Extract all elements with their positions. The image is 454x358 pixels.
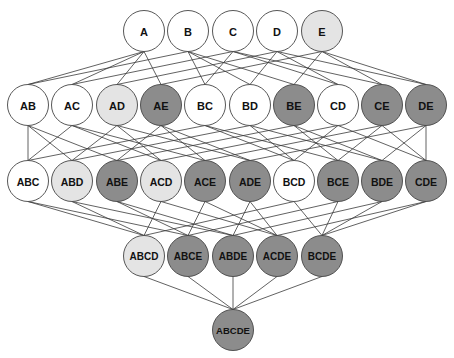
edge-acd-abcd <box>144 202 161 236</box>
edge-bce-bcde <box>322 202 338 236</box>
edge-bcd-abcd <box>144 202 294 236</box>
node-abcde: ABCDE <box>213 310 254 351</box>
edge-bd-abd <box>72 126 250 161</box>
node-label: B <box>184 26 192 38</box>
node-ae: AE <box>141 85 182 126</box>
node-bce: BCE <box>318 161 359 202</box>
node-label: BE <box>286 100 301 112</box>
edge-bcde-abcde <box>233 277 322 310</box>
node-abde: ABDE <box>213 236 254 277</box>
edge-ade-abde <box>233 202 250 236</box>
edge-be-abe <box>117 126 294 161</box>
node-ab: AB <box>8 85 49 126</box>
node-label: ABCDE <box>216 325 250 336</box>
edge-bde-abde <box>233 202 382 236</box>
node-label: BD <box>242 100 258 112</box>
node-ac: AC <box>52 85 93 126</box>
node-label: BCDE <box>308 251 337 262</box>
node-bcd: BCD <box>274 161 315 202</box>
edge-bce-abce <box>188 202 338 236</box>
node-ad: AD <box>97 85 138 126</box>
node-label: ABCE <box>174 251 203 262</box>
edge-acde-abcde <box>233 277 277 310</box>
edge-cde-bcde <box>322 202 426 236</box>
node-label: CD <box>330 100 346 112</box>
node-label: ACE <box>194 176 216 188</box>
node-ce: CE <box>362 85 403 126</box>
node-ace: ACE <box>185 161 226 202</box>
edge-b-ab <box>28 52 188 85</box>
edge-cd-cde <box>338 126 426 161</box>
node-b: B <box>168 11 209 52</box>
node-abcd: ABCD <box>124 236 165 277</box>
node-bc: BC <box>185 85 226 126</box>
node-acd: ACD <box>141 161 182 202</box>
node-bde: BDE <box>362 161 403 202</box>
node-label: D <box>273 26 281 38</box>
edge-abc-abcd <box>28 202 144 236</box>
edge-ce-bce <box>338 126 382 161</box>
node-label: BCE <box>327 176 349 188</box>
node-label: E <box>318 26 325 38</box>
edge-de-ade <box>250 126 426 161</box>
node-label: AE <box>153 100 168 112</box>
node-ade: ADE <box>230 161 271 202</box>
edge-cd-acd <box>161 126 338 161</box>
edge-ad-abd <box>72 126 117 161</box>
edge-bd-bcd <box>250 126 294 161</box>
node-d: D <box>257 11 298 52</box>
edge-ab-abe <box>28 126 117 161</box>
node-label: ADE <box>239 176 261 188</box>
node-label: ABE <box>106 176 128 188</box>
node-label: ABC <box>17 176 40 188</box>
node-label: ACDE <box>263 251 292 262</box>
edge-abce-abcde <box>188 277 233 310</box>
lattice-svg: ABCDEABACADAEBCBDBECDCEDEABCABDABEACDACE… <box>0 0 454 358</box>
node-label: ACD <box>150 176 173 188</box>
node-label: C <box>229 26 237 38</box>
node-abe: ABE <box>97 161 138 202</box>
node-de: DE <box>406 85 447 126</box>
node-c: C <box>213 11 254 52</box>
edge-abcd-abcde <box>144 277 233 310</box>
node-label: BC <box>197 100 213 112</box>
edge-ae-ace <box>161 126 205 161</box>
node-label: CDE <box>415 176 437 188</box>
node-label: A <box>140 26 148 38</box>
edge-cde-acde <box>277 202 426 236</box>
node-label: BDE <box>371 176 393 188</box>
node-abd: ABD <box>52 161 93 202</box>
node-label: AB <box>20 100 36 112</box>
node-bcde: BCDE <box>302 236 343 277</box>
node-label: AD <box>109 100 125 112</box>
node-a: A <box>124 11 165 52</box>
node-label: CE <box>374 100 389 112</box>
node-label: ABDE <box>219 251 248 262</box>
node-acde: ACDE <box>257 236 298 277</box>
node-abc: ABC <box>8 161 49 202</box>
node-bd: BD <box>230 85 271 126</box>
node-label: ABCD <box>130 251 159 262</box>
edge-ce-ace <box>205 126 382 161</box>
node-e: E <box>302 11 343 52</box>
edge-ace-abce <box>188 202 205 236</box>
edge-bc-abc <box>28 126 205 161</box>
node-label: BCD <box>283 176 306 188</box>
edge-e-de <box>322 52 426 85</box>
edge-a-ab <box>28 52 144 85</box>
node-cd: CD <box>318 85 359 126</box>
node-label: DE <box>418 100 433 112</box>
subset-lattice-diagram: ABCDEABACADAEBCBDBECDCEDEABCABDABEACDACE… <box>0 0 454 358</box>
node-be: BE <box>274 85 315 126</box>
node-label: ABD <box>61 176 84 188</box>
node-abce: ABCE <box>168 236 209 277</box>
node-cde: CDE <box>406 161 447 202</box>
node-label: AC <box>64 100 80 112</box>
